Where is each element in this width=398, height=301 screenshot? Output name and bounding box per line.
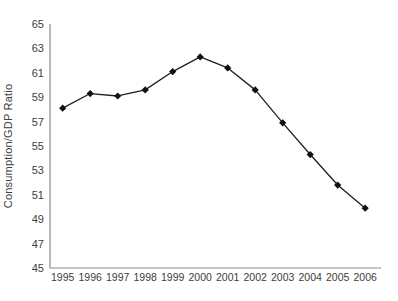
- x-tick-label: 2000: [189, 271, 213, 283]
- data-point-marker: [169, 68, 176, 75]
- y-tick-label: 45: [32, 262, 44, 274]
- data-point-marker: [197, 53, 204, 60]
- y-tick-label: 65: [32, 18, 44, 30]
- consumption-gdp-chart: Consumption/GDP Ratio 454749515355575961…: [0, 0, 398, 301]
- y-tick-label: 47: [32, 238, 44, 250]
- y-tick-label: 61: [32, 67, 44, 79]
- y-tick-label: 55: [32, 140, 44, 152]
- x-tick-label: 1997: [106, 271, 130, 283]
- x-tick-label: 1996: [79, 271, 103, 283]
- y-tick-label: 49: [32, 213, 44, 225]
- x-tick-label: 2005: [326, 271, 350, 283]
- x-tick-label: 1998: [134, 271, 158, 283]
- x-tick-label: 1995: [51, 271, 75, 283]
- x-tick-label: 2004: [299, 271, 323, 283]
- series-line: [63, 57, 366, 208]
- y-tick-label: 59: [32, 91, 44, 103]
- x-tick-label: 1999: [161, 271, 185, 283]
- y-tick-label: 51: [32, 189, 44, 201]
- y-tick-label: 63: [32, 42, 44, 54]
- y-tick-label: 53: [32, 164, 44, 176]
- data-point-marker: [114, 92, 121, 99]
- axes-lines: [50, 24, 381, 268]
- x-tick-label: 2003: [271, 271, 295, 283]
- x-tick-label: 2006: [354, 271, 378, 283]
- x-tick-label: 2002: [244, 271, 268, 283]
- line-plot-svg: 4547495153555759616365199519961997199819…: [0, 0, 398, 301]
- data-point-marker: [87, 90, 94, 97]
- data-point-marker: [142, 86, 149, 93]
- y-tick-label: 57: [32, 116, 44, 128]
- data-point-marker: [59, 105, 66, 112]
- x-tick-label: 2001: [216, 271, 240, 283]
